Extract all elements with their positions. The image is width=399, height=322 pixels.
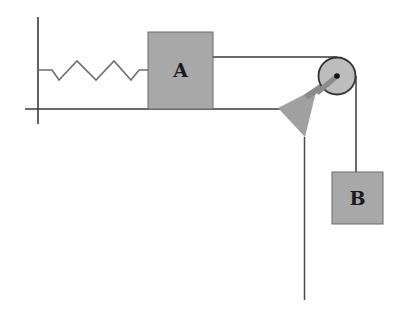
block-a-label: A [172, 59, 188, 81]
spring [38, 61, 148, 80]
pulley-axle [334, 73, 340, 79]
block-b-label: B [349, 187, 365, 209]
pulley-diagram: A B [0, 0, 399, 322]
